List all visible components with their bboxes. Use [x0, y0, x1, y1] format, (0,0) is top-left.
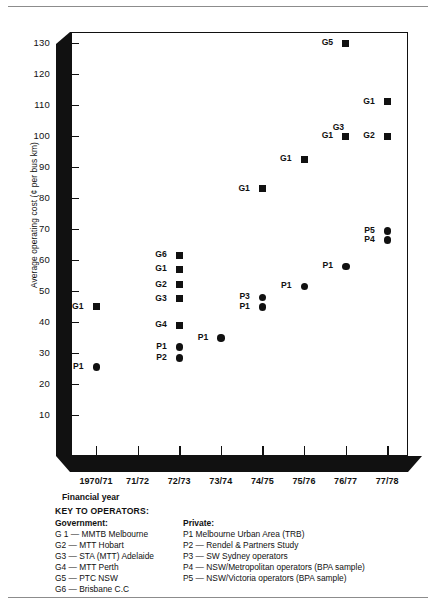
- circle-marker-icon: [342, 263, 350, 271]
- circle-marker-icon: [93, 363, 101, 371]
- square-marker-icon: [176, 252, 183, 259]
- y-axis-tick-label: 30: [8, 348, 50, 358]
- key-private-entry: P2 — Rendel & Partners Study: [183, 540, 429, 551]
- x-axis-tick: [138, 446, 139, 456]
- y-axis-tick: [72, 43, 79, 44]
- key-private-entry: P1 Melbourne Urban Area (TRB): [183, 529, 429, 540]
- y-axis-tick: [72, 198, 79, 199]
- square-marker-icon: [259, 185, 266, 192]
- y-axis-tick: [72, 291, 79, 292]
- data-point-label: G6: [155, 249, 166, 259]
- data-point-label: G2: [155, 279, 166, 289]
- square-marker-icon: [93, 303, 100, 310]
- x-axis-tick: [304, 446, 305, 456]
- plot-area-frame: [70, 32, 408, 456]
- square-marker-icon: [176, 281, 183, 288]
- y-axis-title: Average operating cost (¢ per bus km): [29, 85, 39, 345]
- key-government-entry: G 1 — MMTB Melbourne: [55, 529, 183, 540]
- y-axis-tick: [72, 260, 79, 261]
- data-point-label: P1: [73, 361, 84, 371]
- circle-marker-icon: [384, 236, 392, 244]
- x-axis-tick-label: 77/78: [359, 476, 415, 486]
- key-title: KEY TO OPERATORS:: [55, 506, 431, 516]
- square-marker-icon: [384, 133, 391, 140]
- key-government-entry: G6 — Brisbane C.C: [55, 584, 183, 595]
- y-axis-tick: [72, 322, 79, 323]
- x-axis-title: Financial year: [62, 492, 119, 502]
- key-government-entry: G5 — PTC NSW: [55, 573, 183, 584]
- top-divider-rule: [8, 6, 428, 7]
- circle-marker-icon: [176, 354, 184, 362]
- x-axis-band: [56, 456, 422, 472]
- data-point-label: G4: [155, 319, 166, 329]
- key-government-column: Government: G 1 — MMTB MelbourneG2 — MTT…: [55, 518, 183, 596]
- y-axis-tick: [72, 167, 79, 168]
- data-point-label: P1: [323, 260, 334, 270]
- x-axis-tick: [387, 446, 388, 456]
- data-point-label: G3: [333, 122, 344, 132]
- y-axis-tick-label: 130: [8, 38, 50, 48]
- key-government-entry: G2 — MTT Hobart: [55, 540, 183, 551]
- square-marker-icon: [384, 98, 391, 105]
- y-axis-tick: [72, 105, 79, 106]
- x-axis-tick: [221, 446, 222, 456]
- key-private-column: Private: P1 Melbourne Urban Area (TRB)P2…: [183, 518, 429, 596]
- data-point-label: G1: [280, 153, 291, 163]
- square-marker-icon: [342, 133, 349, 140]
- data-point-label: P1: [198, 332, 209, 342]
- x-axis-tick: [96, 446, 97, 456]
- data-point-label: G1: [72, 301, 83, 311]
- x-axis-tick: [179, 446, 180, 456]
- circle-marker-icon: [384, 227, 392, 235]
- data-point-label: P1: [239, 301, 250, 311]
- y-axis-tick: [72, 384, 79, 385]
- data-point-label: P4: [364, 234, 375, 244]
- y-axis-tick-label: 10: [8, 410, 50, 420]
- y-axis-tick-label: 120: [8, 69, 50, 79]
- data-point-label: P1: [156, 341, 167, 351]
- square-marker-icon: [301, 156, 308, 163]
- key-private-entry: P3 — SW Sydney operators: [183, 551, 429, 562]
- data-point-label: P2: [156, 352, 167, 362]
- y-axis-tick: [72, 353, 79, 354]
- y-axis-tick: [72, 74, 79, 75]
- data-point-label: G5: [322, 37, 333, 47]
- data-point-label: G1: [238, 183, 249, 193]
- y-axis-tick: [72, 415, 79, 416]
- y-axis-band: [56, 32, 72, 456]
- key-private-entry: P5 — NSW/Victoria operators (BPA sample): [183, 573, 429, 584]
- data-point-label: G3: [155, 293, 166, 303]
- y-axis-tick: [72, 229, 79, 230]
- key-government-heading: Government:: [55, 518, 183, 528]
- y-axis-tick-label: 20: [8, 379, 50, 389]
- x-axis-tick: [262, 446, 263, 456]
- key-government-entry: G4 — MTT Perth: [55, 562, 183, 573]
- key-to-operators: KEY TO OPERATORS: Government: G 1 — MMTB…: [55, 506, 431, 596]
- square-marker-icon: [176, 322, 183, 329]
- circle-marker-icon: [176, 343, 184, 351]
- square-marker-icon: [176, 266, 183, 273]
- square-marker-icon: [342, 40, 349, 47]
- data-point-label: P1: [281, 280, 292, 290]
- square-marker-icon: [176, 295, 183, 302]
- key-private-heading: Private:: [183, 518, 429, 528]
- data-point-label: G1: [322, 130, 333, 140]
- x-axis-tick: [346, 446, 347, 456]
- key-government-entry: G3 — STA (MTT) Adelaide: [55, 551, 183, 562]
- circle-marker-icon: [217, 334, 225, 342]
- y-axis-tick: [72, 136, 79, 137]
- data-point-label: G1: [155, 263, 166, 273]
- data-point-label: G1: [363, 96, 374, 106]
- circle-marker-icon: [259, 303, 267, 311]
- bottom-divider-rule: [8, 597, 428, 598]
- key-private-entry: P4 — NSW/Metropolitan operators (BPA sam…: [183, 562, 429, 573]
- data-point-label: G2: [363, 130, 374, 140]
- scatter-chart: 1301201101009080706050403020101970/7171/…: [0, 10, 436, 480]
